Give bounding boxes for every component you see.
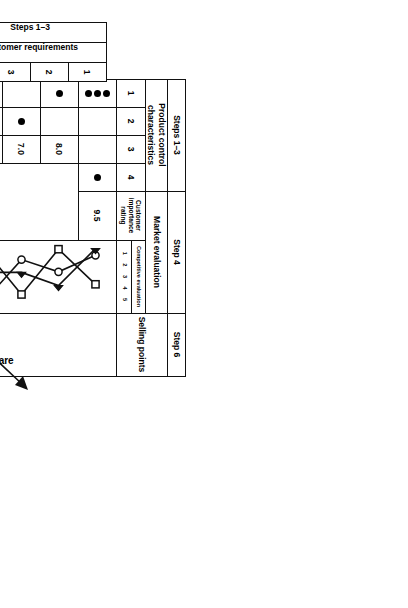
marker-circle <box>18 256 25 263</box>
scale-tick-3: 3 <box>121 275 127 278</box>
characteristic-col-1-header: 1 <box>116 79 145 107</box>
marker-square <box>92 280 99 287</box>
relationship-dot <box>18 118 25 125</box>
product-control-characteristics-label: Product control characteristics <box>146 103 167 166</box>
stub-row: Steps 1–3 Customer requirements 1 <box>69 23 107 82</box>
marker-triangle <box>18 272 26 277</box>
relationship-dot <box>56 90 63 97</box>
compare-annotation: Compare <box>0 308 36 428</box>
qfd-matrix: Steps 1–3 Step 4 Step 6 Product control … <box>0 22 186 377</box>
left-stub-spacer <box>145 23 185 80</box>
steps-1-3-label: Steps 1–3 <box>172 115 182 155</box>
characteristic-col-2-header: 2 <box>116 107 145 135</box>
relationship-dot <box>94 90 101 97</box>
matrix-cell-r1c4[interactable] <box>78 163 116 191</box>
matrix-cell-r2c3[interactable] <box>40 79 78 107</box>
compare-arrow-icon: Compare <box>0 308 36 428</box>
product-control-characteristics-header: Product control characteristics <box>145 79 167 191</box>
characteristic-col-3-header: 3 <box>116 135 145 163</box>
relationship-dots <box>18 108 25 135</box>
characteristic-col-4-label: 4 <box>126 175 136 180</box>
importance-rating-r2: 8.0 <box>40 135 78 163</box>
step-4-header: Step 4 <box>168 191 186 313</box>
relationship-dot <box>94 174 101 181</box>
marker-circle <box>55 268 62 275</box>
characteristic-col-4-header: 4 <box>116 163 145 191</box>
competitive-evaluation-plot <box>0 241 114 313</box>
matrix-cell-r1c3[interactable] <box>78 135 116 163</box>
marker-square <box>18 290 25 297</box>
matrix-cell-r3c3[interactable] <box>2 79 40 107</box>
importance-rating-r3: 7.0 <box>2 135 40 163</box>
requirement-row-1-label: 1 <box>83 70 93 75</box>
scale-tick-4: 4 <box>121 287 127 290</box>
qfd-diagram-stage: Steps 1–3 Step 4 Step 6 Product control … <box>0 0 200 608</box>
relationship-dots <box>85 80 110 107</box>
scale-tick-1: 1 <box>121 252 127 255</box>
marker-square <box>55 245 62 252</box>
competitive-evaluation-header: Competitive evaluation 1 2 3 4 5 <box>116 240 145 313</box>
matrix-cell-r2c4[interactable] <box>40 107 78 135</box>
market-evaluation-header: Market evaluation <box>145 191 167 313</box>
compare-label: Compare <box>0 355 14 366</box>
relationship-dot <box>85 90 92 97</box>
relationship-dot <box>103 90 110 97</box>
marker-triangle <box>55 285 63 290</box>
importance-value: 7.0 <box>16 143 26 155</box>
matrix-cell-r3c4[interactable] <box>2 107 40 135</box>
characteristic-col-3-label: 3 <box>126 147 136 152</box>
requirement-row-1-label-cell: 1 <box>69 63 107 82</box>
importance-rating-r4: 8.5 <box>0 135 2 163</box>
customer-requirements-side-label: Customer requirements <box>0 43 78 53</box>
importance-rating-r1: 9.5 <box>78 191 116 240</box>
importance-value: 9.5 <box>92 210 102 222</box>
matrix-cell-r1c1[interactable] <box>78 79 116 107</box>
step-4-label: Step 4 <box>172 239 182 265</box>
scale-tick-2: 2 <box>121 263 127 266</box>
scale-tick-5: 5 <box>121 298 127 301</box>
selling-points-header: Selling points <box>116 313 167 376</box>
steps-1-3-side-label: Steps 1–3 <box>11 23 51 33</box>
customer-requirements-side-header: Customer requirements <box>0 43 107 63</box>
requirement-row-3-label-cell: 3 <box>0 63 31 82</box>
matrix-cell-r1c2[interactable] <box>78 107 116 135</box>
header-row-steps: Steps 1–3 Step 4 Step 6 <box>168 23 186 377</box>
left-stub-table: Steps 1–3 Customer requirements 1 2 3 4 <box>0 22 107 82</box>
requirement-row-3-label: 3 <box>7 70 17 75</box>
matrix-cell-r4c3[interactable] <box>0 79 2 107</box>
market-evaluation-label: Market evaluation <box>152 216 162 288</box>
matrix-cell-r4c4[interactable] <box>0 107 2 135</box>
requirement-row-2-label-cell: 2 <box>31 63 69 82</box>
competitive-evaluation-chart[interactable] <box>0 240 116 313</box>
characteristic-col-2-label: 2 <box>126 119 136 124</box>
step-6-label: Step 6 <box>172 332 182 358</box>
customer-importance-rating-label: Customer importance rating <box>119 192 143 240</box>
selling-points-label: Selling points <box>137 317 147 373</box>
competitive-evaluation-label: Competitive evaluation <box>132 241 145 313</box>
step-6-header: Step 6 <box>168 313 186 376</box>
relationship-dots <box>94 164 101 191</box>
requirement-row-2-label: 2 <box>45 70 55 75</box>
relationship-dots <box>56 80 63 107</box>
importance-value: 8.0 <box>54 143 64 155</box>
characteristic-col-1-label: 1 <box>126 91 136 96</box>
steps-1-3-side-header: Steps 1–3 <box>0 23 107 43</box>
customer-importance-rating-header: Customer importance rating <box>116 191 145 240</box>
steps-1-3-header: Steps 1–3 <box>168 79 186 191</box>
